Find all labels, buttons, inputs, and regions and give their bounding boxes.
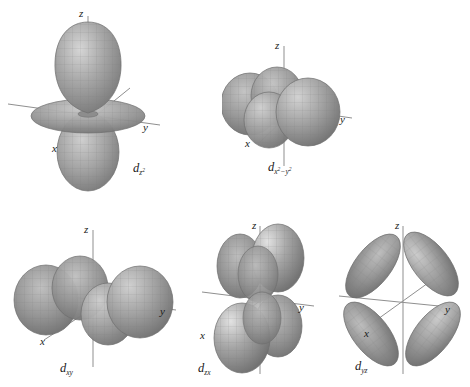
- orbital-panel-dzx: z y x dzx: [196, 222, 341, 387]
- orbital-label-dz2-subscript: z2: [139, 168, 145, 177]
- axis-label-x-dx2-y2: x: [245, 138, 250, 149]
- orbital-graphic-dx2-y2: [222, 38, 437, 193]
- orbital-label-dz2: dz2: [133, 162, 145, 175]
- axis-label-x-dyz: x: [364, 328, 369, 339]
- orbital-graphic-dzx: [196, 222, 341, 387]
- lobe-dz2-positive-z: [55, 22, 121, 113]
- axis-label-z-dx2-y2: z: [275, 40, 279, 51]
- orbital-label-dzx-subscript: zx: [204, 368, 210, 377]
- lobe-dyz-upper-right: [393, 223, 468, 305]
- orbital-graphic-dz2: [0, 0, 210, 195]
- axis-label-x-dzx: x: [200, 330, 205, 341]
- lobe-dzx-lower-middle: [243, 292, 281, 344]
- axis-label-z-dz2: z: [79, 8, 83, 19]
- axis-label-z-dxy: z: [84, 224, 88, 235]
- orbital-graphic-dxy: [8, 222, 218, 387]
- orbital-label-dxy: dxy: [60, 362, 73, 375]
- orbital-panel-dz2: z y x dz2: [0, 0, 210, 195]
- orbital-panel-dyz: z y x dyz: [335, 222, 470, 387]
- axis-label-y-dz2: y: [143, 122, 148, 133]
- orbital-panel-dxy: z y x dxy: [8, 222, 218, 387]
- orbital-label-dzx: dzx: [198, 362, 211, 375]
- orbital-panel-dx2-y2: z y x dx2−y2: [222, 38, 437, 193]
- orbital-label-dx2-y2: dx2−y2: [268, 161, 291, 174]
- axis-label-x-dz2: x: [52, 143, 57, 154]
- axis-label-y-dzx: y: [299, 302, 304, 313]
- orbital-label-dxy-subscript: xy: [66, 368, 73, 377]
- axis-label-z-dzx: z: [252, 220, 256, 231]
- d-orbital-figure: z y x dz2: [0, 0, 470, 387]
- axis-label-y-dxy: y: [160, 306, 165, 317]
- lobe-dyz-upper-left: [335, 225, 410, 307]
- axis-label-y-dx2-y2: y: [340, 114, 345, 125]
- axis-label-y-dyz: y: [445, 304, 450, 315]
- lobe-dx2-y2-front-right: [276, 78, 340, 146]
- orbital-label-dyz: dyz: [355, 360, 368, 373]
- axis-label-x-dxy: x: [40, 336, 45, 347]
- orbital-label-dyz-subscript: yz: [361, 366, 367, 375]
- lobe-dxy-front-right: [107, 266, 173, 338]
- orbital-label-dx2-y2-subscript: x2−y2: [274, 167, 291, 176]
- axis-label-z-dyz: z: [395, 220, 399, 231]
